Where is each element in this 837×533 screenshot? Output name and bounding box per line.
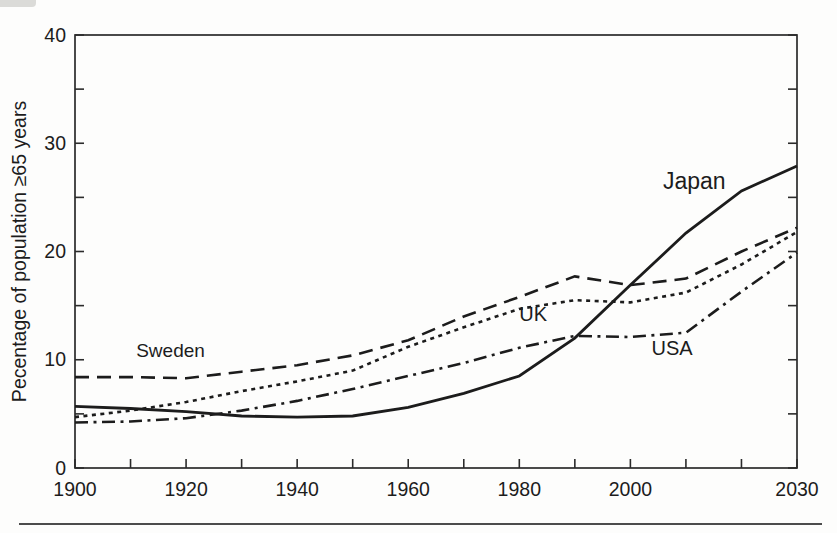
series-line-uk [75, 232, 797, 417]
x-tick-label: 1920 [164, 478, 208, 500]
series-label-usa: USA [651, 337, 693, 359]
y-tick-label: 40 [44, 24, 66, 46]
x-tick-label: 1960 [387, 478, 431, 500]
x-tick-label: 1940 [275, 478, 319, 500]
series-label-uk: UK [519, 303, 547, 325]
y-tick-label: 20 [44, 240, 66, 262]
figure-bottom-rule [19, 523, 822, 525]
y-axis-title: Pecentage of population ≥65 years [8, 101, 30, 403]
y-tick-label: 10 [44, 348, 66, 370]
population-over-65-line-chart: 1900192019401960198020002030010203040Pec… [0, 0, 837, 520]
plot-frame [75, 35, 797, 468]
y-tick-label: 0 [55, 457, 66, 479]
figure-page: 1900192019401960198020002030010203040Pec… [0, 0, 837, 533]
x-tick-label: 1900 [53, 478, 97, 500]
x-tick-label: 1980 [498, 478, 542, 500]
x-tick-label: 2000 [609, 478, 653, 500]
x-tick-label: 2030 [775, 478, 819, 500]
series-label-japan: Japan [663, 168, 726, 194]
series-label-sweden: Sweden [136, 340, 205, 361]
y-tick-label: 30 [44, 132, 66, 154]
